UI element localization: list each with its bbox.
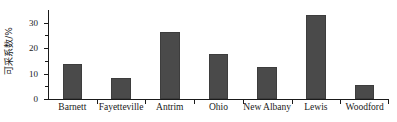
- x-tick-label: Lewis: [304, 102, 327, 112]
- x-tick-label: Woodford: [345, 102, 383, 112]
- y-axis-title-container: 可采系数/%: [0, 0, 18, 102]
- bar-chart-figure: 可采系数/% 0102030 BarnettFayettevilleAntrim…: [0, 0, 397, 122]
- x-tick-label: Antrim: [156, 102, 183, 112]
- plot-area: 0102030: [48, 10, 389, 100]
- y-axis-line: [48, 10, 49, 100]
- y-tick-minor: [45, 86, 48, 87]
- x-tick-label: Fayetteville: [99, 102, 144, 112]
- y-tick-minor: [45, 35, 48, 36]
- x-axis-line: [48, 99, 389, 100]
- y-axis-title: 可采系数/%: [5, 27, 14, 75]
- y-tick-label: 0: [34, 95, 39, 104]
- x-axis-labels: BarnettFayettevilleAntrimOhioNew AlbanyL…: [48, 102, 389, 120]
- bar: [209, 54, 228, 99]
- y-tick-major: [44, 23, 48, 24]
- y-tick-label: 20: [29, 44, 38, 53]
- bar: [355, 85, 374, 99]
- y-tick-major: [44, 48, 48, 49]
- x-tick-label: Ohio: [209, 102, 228, 112]
- bar: [257, 67, 276, 99]
- x-tick-label: New Albany: [243, 102, 291, 112]
- x-tick-label: Barnett: [58, 102, 86, 112]
- y-tick-minor: [45, 61, 48, 62]
- bar: [63, 64, 82, 99]
- y-tick-major: [44, 99, 48, 100]
- bar: [160, 32, 179, 99]
- bar: [111, 78, 130, 99]
- bar: [306, 15, 325, 99]
- y-tick-label: 30: [29, 18, 38, 27]
- y-tick-label: 10: [29, 69, 38, 78]
- y-tick-major: [44, 74, 48, 75]
